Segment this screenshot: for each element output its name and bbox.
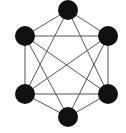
graph-diagram xyxy=(0,0,126,133)
node-top xyxy=(58,0,78,20)
edge-bottom-upper-left xyxy=(25,36,68,117)
edges-group xyxy=(25,10,108,117)
node-bottom xyxy=(58,107,78,127)
node-upper-right xyxy=(98,26,118,46)
node-lower-left xyxy=(15,84,35,104)
node-upper-left xyxy=(15,26,35,46)
nodes-group xyxy=(15,0,118,127)
edge-bottom-upper-right xyxy=(68,36,108,117)
node-lower-right xyxy=(98,84,118,104)
